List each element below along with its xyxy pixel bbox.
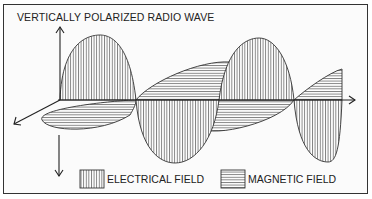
wave-diagram <box>0 0 372 199</box>
legend-label-electrical: ELECTRICAL FIELD <box>107 173 204 185</box>
legend-label-magnetic: MAGNETIC FIELD <box>248 173 336 185</box>
legend-swatch-electrical <box>80 170 104 188</box>
legend-swatch-magnetic <box>221 170 245 188</box>
